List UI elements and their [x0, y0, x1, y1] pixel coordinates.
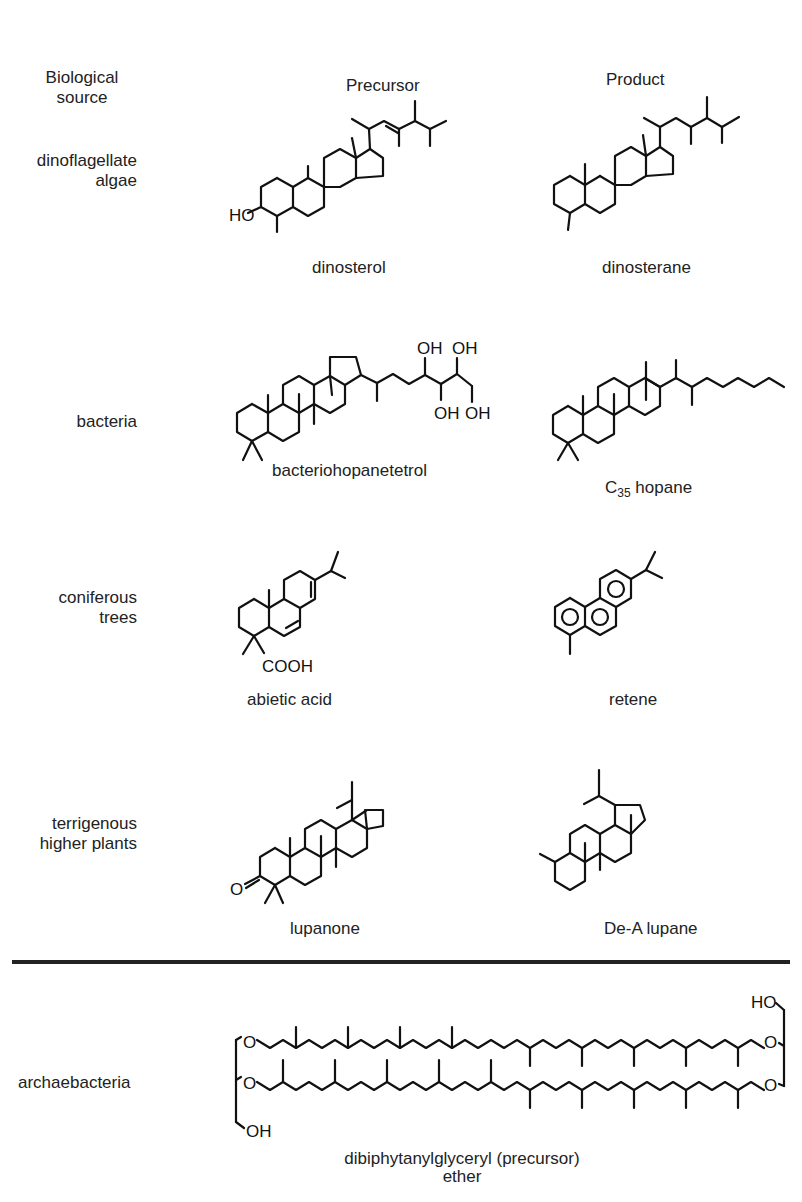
atom-label-o-left-bottom: O	[243, 1074, 256, 1093]
compound-name-dibiphytanylglyceryl-ether: dibiphytanylglyceryl (precursor) ether	[322, 1150, 602, 1186]
dibiphytanylglyceryl-ether-structure: O O OH O O HO	[0, 0, 802, 1202]
atom-label-ho-right: HO	[751, 993, 777, 1012]
name-line1: dibiphytanylglyceryl (precursor)	[322, 1150, 602, 1168]
name-line2: ether	[322, 1168, 602, 1186]
atom-label-o-right-bottom: O	[764, 1076, 777, 1095]
atom-label-o-right-top: O	[764, 1033, 777, 1052]
atom-label-o-left-top: O	[243, 1033, 256, 1052]
atom-label-oh: OH	[246, 1122, 272, 1141]
